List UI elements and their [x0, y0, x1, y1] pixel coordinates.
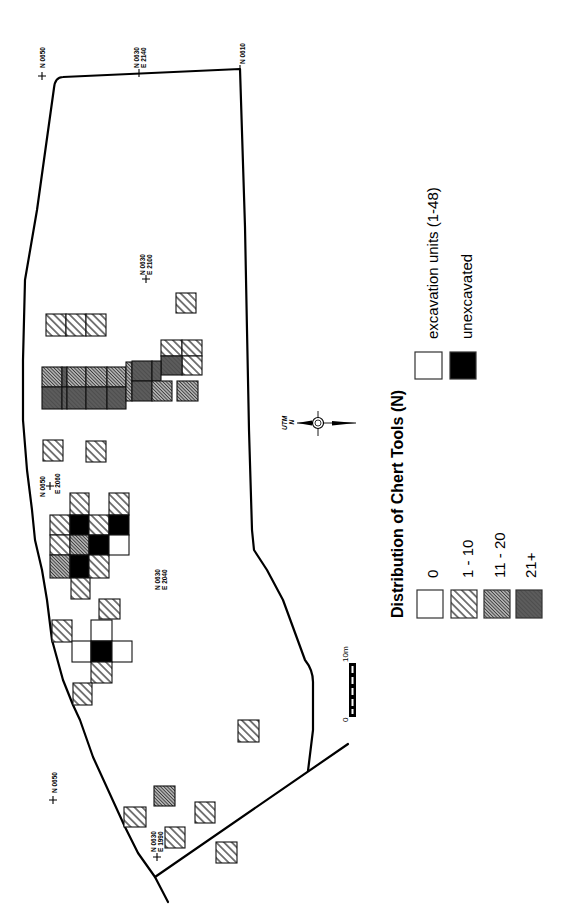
- excavation-unit-count-1-10: [182, 356, 202, 375]
- excavation-unit-count-21-plus: [152, 361, 161, 381]
- legend-label-unexcavated: unexcavated: [458, 254, 475, 339]
- grid-label-east: E 2040: [161, 569, 168, 590]
- excavation-unit-count-1-10: [195, 802, 215, 823]
- excavation-unit-unexcavated: [109, 515, 129, 535]
- excavation-unit-count-0: [72, 641, 91, 662]
- excavation-unit-count-1-10: [66, 314, 86, 336]
- legend-item-count-1-10: 1 - 10: [451, 540, 477, 618]
- excavation-unit-count-11-20: [67, 367, 86, 387]
- excavation-unit-count-21-plus: [132, 361, 152, 381]
- excavation-unit-count-1-10: [216, 842, 237, 863]
- excavation-unit-count-11-20: [86, 367, 107, 387]
- grid-label-east: E 1990: [157, 831, 164, 852]
- scale-bar: 10m 0: [341, 646, 357, 722]
- north-arrow: UTM N: [281, 411, 356, 436]
- scale-bar-end-label: 10m: [341, 646, 350, 662]
- excavation-unit-count-11-20: [154, 786, 175, 806]
- grid-cross-icon: [49, 796, 57, 804]
- grid-marker-6: N 0650: [49, 772, 58, 804]
- legend-item-count-11-20: 11 - 20: [484, 532, 510, 618]
- grid-reference-labels: N 0650 N 0630 E 2140 N 0610 N 0630 E 210…: [38, 43, 246, 861]
- excavation-unit-count-1-10: [43, 440, 63, 461]
- grid-label-east: E 2140: [140, 47, 147, 68]
- grid-cross-icon: [142, 275, 150, 283]
- grid-marker-4: N 0650 E 2060: [39, 473, 62, 497]
- excavation-unit-count-0: [109, 535, 129, 555]
- grid-label-north: N 0650: [51, 772, 58, 793]
- grid-label-east: E 2060: [54, 473, 61, 494]
- excavation-unit-unexcavated: [70, 515, 89, 535]
- excavation-unit-count-11-20: [70, 535, 89, 555]
- legend-label-count-11-20: 11 - 20: [491, 532, 508, 578]
- grid-cross-icon: [46, 482, 54, 490]
- excavation-units-layer: [42, 293, 259, 863]
- excavation-unit-count-21-plus: [67, 387, 86, 409]
- excavation-unit-count-1-10: [70, 493, 89, 515]
- excavation-unit-count-1-10: [238, 720, 259, 742]
- site-outline-line: [23, 69, 313, 902]
- grid-label-north: N 0650: [39, 47, 46, 68]
- legend-swatch-excavated: [415, 352, 442, 379]
- excavation-unit-count-21-plus: [86, 387, 107, 409]
- excavation-unit-count-11-20: [177, 381, 198, 401]
- legend-item-unexcavated: unexcavated: [450, 254, 476, 379]
- excavation-unit-count-1-10: [89, 515, 109, 535]
- grid-marker-7: N 0630 E 1990: [150, 831, 165, 861]
- excavation-unit-count-11-20: [50, 555, 70, 578]
- excavation-unit-unexcavated: [89, 535, 109, 555]
- grid-label-north: N 0630: [150, 831, 157, 852]
- grid-label-north: N 0630: [139, 254, 146, 275]
- site-map: N 0650 N 0630 E 2140 N 0610 N 0630 E 210…: [0, 0, 567, 920]
- excavation-unit-count-0: [91, 620, 112, 641]
- excavation-unit-count-1-10: [165, 827, 185, 848]
- excavation-unit-count-11-20: [107, 367, 126, 387]
- legend-label-count-1-10: 1 - 10: [459, 540, 476, 578]
- excavation-unit-count-1-10: [176, 293, 196, 313]
- excavation-unit-count-11-20: [152, 381, 172, 401]
- excavation-unit-count-11-20: [126, 362, 132, 401]
- legend-swatch-count-1-10: [451, 590, 477, 618]
- excavation-unit-count-1-10: [50, 535, 70, 555]
- legend-swatch-count-0: [417, 590, 443, 618]
- excavation-unit-count-1-10: [109, 493, 129, 515]
- excavation-unit-count-21-plus: [161, 356, 182, 375]
- legend-swatch-count-11-20: [484, 590, 510, 618]
- grid-marker-0: N 0650: [38, 47, 46, 80]
- excavation-unit-count-1-10: [86, 314, 106, 336]
- excavation-unit-count-1-10: [73, 683, 92, 705]
- excavation-unit-count-1-10: [86, 441, 106, 462]
- grid-label-north: N 0610: [239, 43, 246, 64]
- excavation-unit-count-0: [112, 641, 132, 662]
- excavation-unit-count-1-10: [46, 314, 66, 336]
- legend-item-excavated: excavation units (1-48): [415, 187, 442, 379]
- excavation-unit-count-21-plus: [132, 381, 152, 401]
- excavation-unit-count-1-10: [50, 515, 70, 535]
- legend-label-count-0: 0: [424, 570, 441, 578]
- grid-cross-icon: [153, 853, 161, 861]
- grid-marker-2: N 0610: [239, 43, 246, 73]
- legend-label-excavated: excavation units (1-48): [424, 187, 441, 339]
- excavation-unit-count-21-plus: [62, 387, 67, 409]
- compass-label-n: N: [288, 420, 295, 425]
- excavation-unit-count-1-10: [182, 340, 202, 356]
- grid-label-north: N 0630: [133, 47, 140, 68]
- excavation-unit-count-21-plus: [42, 387, 62, 409]
- excavation-unit-count-1-10: [71, 578, 90, 599]
- legend: Distribution of Chert Tools (N) excavati…: [389, 187, 543, 618]
- excavation-unit-count-1-10: [124, 807, 146, 827]
- excavation-unit-unexcavated: [70, 555, 89, 578]
- legend-item-count-21-plus: 21+: [516, 552, 542, 618]
- excavation-unit-count-1-10: [89, 555, 109, 578]
- grid-label-east: E 2100: [146, 254, 153, 275]
- excavation-unit-count-1-10: [99, 599, 120, 619]
- excavation-unit-count-1-10: [52, 620, 72, 642]
- scale-bar-start-label: 0: [341, 717, 350, 722]
- road-line: [155, 744, 348, 877]
- excavation-unit-count-1-10: [161, 340, 182, 356]
- excavation-unit-count-1-10: [91, 662, 112, 683]
- legend-swatch-count-21-plus: [516, 590, 542, 618]
- grid-label-north: N 0630: [154, 569, 161, 590]
- excavation-unit-count-21-plus: [107, 387, 126, 409]
- site-boundary: [23, 69, 348, 902]
- legend-swatch-unexcavated: [450, 352, 476, 379]
